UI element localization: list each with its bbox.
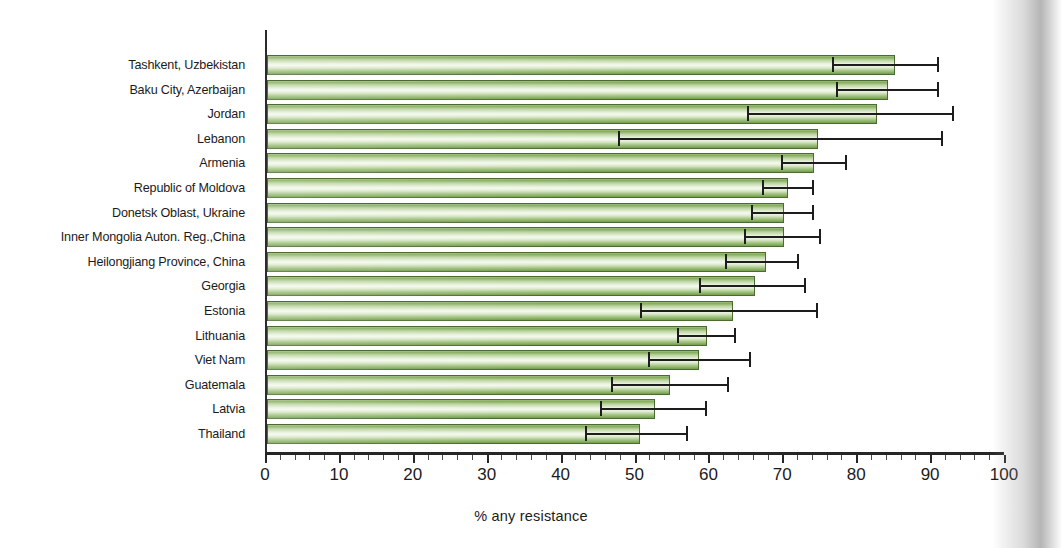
- x-axis-minor-tick: [309, 455, 310, 460]
- error-bar-cap-low: [585, 426, 587, 441]
- x-axis-tick: [487, 455, 489, 463]
- error-bar-cap-high: [734, 328, 736, 343]
- category-label: Republic of Moldova: [0, 181, 245, 195]
- error-bar-line: [618, 138, 943, 140]
- x-axis-minor-tick: [812, 455, 813, 460]
- x-axis-minor-tick: [886, 455, 887, 460]
- x-axis-tick: [635, 455, 637, 463]
- x-axis-minor-tick: [472, 455, 473, 460]
- bar-row: [267, 153, 1006, 173]
- x-axis-minor-tick: [753, 455, 754, 460]
- x-axis-minor-tick: [501, 455, 502, 460]
- x-axis-tick-label: 50: [605, 465, 665, 485]
- x-axis-minor-tick: [398, 455, 399, 460]
- bar: [267, 276, 755, 296]
- error-bar-line: [751, 212, 814, 214]
- error-bar-cap-low: [762, 180, 764, 195]
- bar-chart: Tashkent, UzbekistanBaku City, Azerbaija…: [0, 0, 1062, 548]
- error-bar-line: [611, 384, 729, 386]
- x-axis-tick: [339, 455, 341, 463]
- bar: [267, 178, 788, 198]
- x-axis-minor-tick: [605, 455, 606, 460]
- error-bar-cap-low: [836, 82, 838, 97]
- x-axis-minor-tick: [915, 455, 916, 460]
- x-axis-tick-label: 60: [678, 465, 738, 485]
- x-axis-minor-tick: [694, 455, 695, 460]
- plot-area: [265, 30, 1005, 452]
- error-bar-line: [744, 236, 822, 238]
- error-bar-cap-high: [804, 278, 806, 293]
- error-bar-cap-high: [797, 254, 799, 269]
- x-axis-minor-tick: [768, 455, 769, 460]
- bar-row: [267, 375, 1006, 395]
- error-bar-line: [699, 285, 806, 287]
- x-axis-minor-tick: [797, 455, 798, 460]
- x-axis-minor-tick: [841, 455, 842, 460]
- bar-highlight: [268, 351, 698, 371]
- bar: [267, 227, 784, 247]
- category-label: Thailand: [0, 427, 245, 441]
- bar-row: [267, 252, 1006, 272]
- error-bar-cap-low: [751, 205, 753, 220]
- error-bar-cap-low: [781, 155, 783, 170]
- bar-row: [267, 301, 1006, 321]
- x-axis-tick-label: 40: [531, 465, 591, 485]
- error-bar-cap-high: [941, 131, 943, 146]
- x-axis-tick-label: 20: [383, 465, 443, 485]
- error-bar-cap-low: [699, 278, 701, 293]
- category-label: Guatemala: [0, 378, 245, 392]
- error-bar-line: [762, 187, 814, 189]
- bar-highlight: [268, 179, 787, 199]
- category-label: Tashkent, Uzbekistan: [0, 58, 245, 72]
- bar-row: [267, 80, 1006, 100]
- error-bar-line: [781, 162, 848, 164]
- bar: [267, 80, 888, 100]
- x-axis-minor-tick: [442, 455, 443, 460]
- error-bar-cap-high: [845, 155, 847, 170]
- error-bar-line: [725, 261, 799, 263]
- category-label: Armenia: [0, 156, 245, 170]
- x-axis-tick: [413, 455, 415, 463]
- x-axis-minor-tick: [827, 455, 828, 460]
- error-bar-cap-high: [812, 205, 814, 220]
- bar-highlight: [268, 81, 887, 101]
- category-label: Viet Nam: [0, 353, 245, 367]
- x-axis-tick: [782, 455, 784, 463]
- x-axis-minor-tick: [516, 455, 517, 460]
- error-bar-cap-high: [937, 82, 939, 97]
- error-bar-cap-high: [819, 229, 821, 244]
- x-axis-minor-tick: [575, 455, 576, 460]
- error-bar-cap-high: [812, 180, 814, 195]
- error-bar-cap-high: [937, 57, 939, 72]
- category-label: Estonia: [0, 304, 245, 318]
- error-bar-cap-high: [686, 426, 688, 441]
- x-axis-tick-label: 100: [974, 465, 1034, 485]
- category-label: Lebanon: [0, 132, 245, 146]
- x-axis-tick: [561, 455, 563, 463]
- x-axis-minor-tick: [590, 455, 591, 460]
- x-axis-minor-tick: [738, 455, 739, 460]
- error-bar-cap-low: [600, 401, 602, 416]
- bar-highlight: [268, 154, 813, 174]
- bar-highlight: [268, 327, 706, 347]
- bar-row: [267, 276, 1006, 296]
- error-bar-cap-high: [705, 401, 707, 416]
- bar-row: [267, 55, 1006, 75]
- error-bar-cap-high: [816, 303, 818, 318]
- bar-row: [267, 350, 1006, 370]
- error-bar-cap-low: [648, 352, 650, 367]
- error-bar-cap-low: [725, 254, 727, 269]
- x-axis-tick-label: 30: [457, 465, 517, 485]
- bar-row: [267, 227, 1006, 247]
- x-axis-minor-tick: [457, 455, 458, 460]
- x-axis-minor-tick: [989, 455, 990, 460]
- x-axis-minor-tick: [945, 455, 946, 460]
- bar: [267, 153, 814, 173]
- x-axis-minor-tick: [871, 455, 872, 460]
- category-label: Latvia: [0, 402, 245, 416]
- error-bar-cap-low: [744, 229, 746, 244]
- bar-row: [267, 203, 1006, 223]
- bar-row: [267, 399, 1006, 419]
- bar-highlight: [268, 302, 732, 322]
- category-label: Heilongjiang Province, China: [0, 255, 245, 269]
